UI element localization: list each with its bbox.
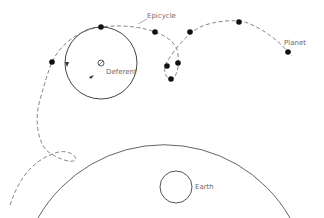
planet-path: [10, 21, 292, 205]
planet-label: Planet: [284, 40, 306, 47]
planet-dots: [49, 19, 291, 82]
planet-dot: [164, 63, 170, 69]
deferent-circle: [38, 145, 290, 218]
epicycle-pointer: [138, 19, 147, 24]
arrow-icon: [89, 75, 94, 79]
planet-dot: [175, 60, 181, 66]
planet-dot: [187, 29, 193, 35]
planet-dot: [168, 76, 174, 82]
epicycle-diagram: Epicycle Deferent Planet Earth: [0, 0, 324, 218]
planet-dot: [49, 59, 55, 65]
planet-dot: [236, 19, 242, 25]
epicycle-label: Epicycle: [147, 13, 176, 20]
planet-dot: [98, 24, 104, 30]
earth-circle: [160, 171, 192, 203]
deferent-label: Deferent: [106, 69, 137, 76]
earth-label: Earth: [195, 184, 214, 191]
planet-dot: [285, 49, 291, 55]
planet-dot: [152, 29, 158, 35]
diagram-canvas: [0, 0, 324, 218]
